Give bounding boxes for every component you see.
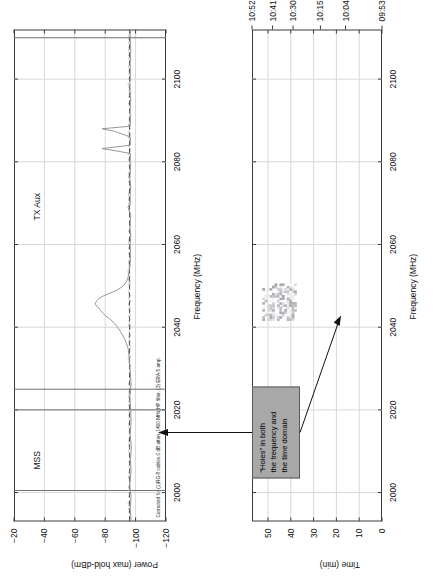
rotated-figure-wrapper: MSS TX Aux Corrected for (1)RG-8 cables.… [0,0,434,581]
figure-canvas: MSS TX Aux Corrected for (1)RG-8 cables.… [0,0,434,581]
callout-leader-lines [0,0,434,581]
